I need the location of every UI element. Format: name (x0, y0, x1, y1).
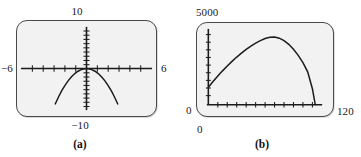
graph-a-xmin-label: −6 (1, 63, 13, 74)
figure-caption-a: (a) (73, 139, 86, 151)
graph-a-ymax-label: 10 (71, 6, 82, 17)
figure-container: 10 −6 6 −10 (a) (0, 0, 361, 157)
graph-b-xmin-label: 0 (197, 124, 203, 135)
calculator-screen-b (196, 22, 334, 117)
curve-b (208, 37, 315, 105)
calculator-screen-a (16, 20, 157, 117)
graph-b-xmax-label: 120 (337, 106, 354, 117)
graph-b-ymin-label: 0 (186, 105, 192, 116)
graph-b-ymax-label: 5000 (196, 7, 218, 18)
graph-a-xmax-label: 6 (161, 63, 167, 74)
graph-a-ymin-label: −10 (71, 120, 89, 131)
graph-b-plot (197, 23, 333, 116)
graph-a-plot (17, 21, 156, 116)
figure-caption-b: (b) (255, 139, 269, 151)
